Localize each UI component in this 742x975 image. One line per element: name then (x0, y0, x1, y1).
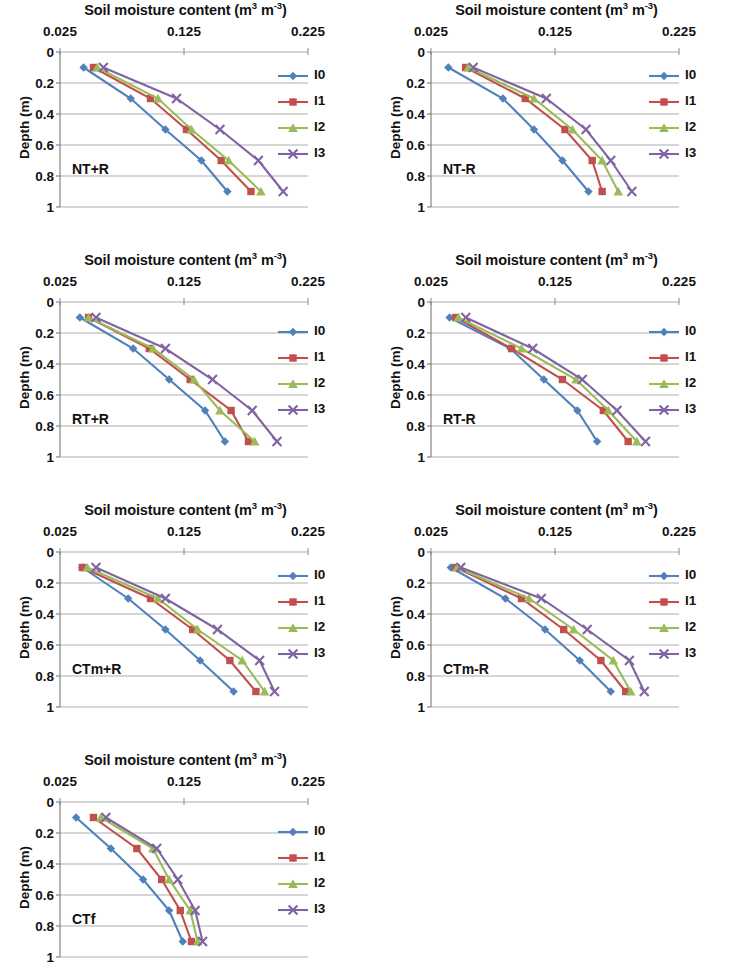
legend-label-i2: I2 (314, 875, 325, 890)
series-line-i2 (97, 68, 261, 192)
series-marker-i1 (252, 688, 259, 695)
legend-label-i3: I3 (685, 145, 696, 160)
legend-marker-i1 (660, 98, 667, 105)
legend-label-i2: I2 (685, 119, 696, 134)
series-line-i1 (93, 68, 250, 192)
series-marker-i3 (255, 656, 264, 665)
legend-label-i2: I2 (314, 119, 325, 134)
series-marker-i3 (625, 656, 634, 665)
legend-label-i2: I2 (314, 619, 325, 634)
chart-panel-ctm-r: Soil moisture content (m3 m-3)0.0250.125… (371, 500, 742, 750)
legend-label-i1: I1 (314, 593, 325, 608)
series-marker-i3 (248, 406, 257, 415)
legend-marker-i0 (289, 572, 297, 580)
legend-marker-i1 (289, 98, 296, 105)
series-marker-i1 (226, 657, 233, 664)
panel-label: RT-R (443, 411, 476, 427)
legend-label-i0: I0 (314, 567, 325, 582)
series-marker-i3 (582, 125, 591, 134)
series-marker-i3 (161, 594, 170, 603)
series-marker-i3 (606, 156, 615, 165)
legend-marker-i1 (289, 354, 296, 361)
legend-marker-i0 (289, 828, 297, 836)
panel-label: CTm+R (72, 661, 121, 677)
series-line-i2 (101, 818, 198, 942)
legend-label-i3: I3 (314, 401, 325, 416)
series-marker-i2 (153, 94, 163, 103)
chart-panel-ctf: Soil moisture content (m3 m-3)0.0250.125… (0, 750, 371, 975)
legend-label-i3: I3 (314, 901, 325, 916)
legend-label-i3: I3 (685, 401, 696, 416)
series-marker-i3 (208, 375, 217, 384)
panel-label: CTm-R (443, 661, 489, 677)
legend-label-i1: I1 (314, 93, 325, 108)
legend-marker-i1 (660, 354, 667, 361)
legend-label-i1: I1 (685, 93, 696, 108)
series-marker-i1 (90, 814, 97, 821)
legend-label-i1: I1 (685, 593, 696, 608)
legend-label-i0: I0 (314, 323, 325, 338)
legend-label-i0: I0 (685, 567, 696, 582)
series-marker-i1 (598, 188, 605, 195)
legend-label-i1: I1 (314, 849, 325, 864)
chart-panel-rt-r: Soil moisture content (m3 m-3)0.0250.125… (371, 250, 742, 500)
series-marker-i3 (273, 437, 282, 446)
chart-panel-ctm-r: Soil moisture content (m3 m-3)0.0250.125… (0, 500, 371, 750)
legend-label-i3: I3 (685, 645, 696, 660)
legend-marker-i0 (289, 328, 297, 336)
series-marker-i3 (613, 406, 622, 415)
panel-label: CTf (72, 911, 95, 927)
legend-marker-i1 (660, 598, 667, 605)
series-marker-i2 (164, 875, 174, 884)
series-marker-i1 (218, 157, 225, 164)
series-marker-i3 (172, 94, 181, 103)
series-marker-i0 (76, 313, 84, 321)
series-marker-i3 (216, 125, 225, 134)
series-marker-i3 (627, 187, 636, 196)
chart-panel-nt-r: Soil moisture content (m3 m-3)0.0250.125… (371, 0, 742, 250)
legend-label-i0: I0 (314, 823, 325, 838)
legend-label-i0: I0 (685, 323, 696, 338)
series-marker-i3 (270, 687, 279, 696)
chart-panel-nt-r: Soil moisture content (m3 m-3)0.0250.125… (0, 0, 371, 250)
series-marker-i0 (179, 937, 187, 945)
legend-label-i2: I2 (314, 375, 325, 390)
legend-label-i3: I3 (314, 645, 325, 660)
series-marker-i1 (133, 845, 140, 852)
legend-marker-i0 (289, 72, 297, 80)
panel-label: RT+R (72, 411, 109, 427)
panel-label: NT-R (443, 161, 476, 177)
legend-marker-i0 (660, 572, 668, 580)
legend-marker-i1 (289, 598, 296, 605)
series-marker-i3 (161, 344, 170, 353)
legend-marker-i1 (289, 854, 296, 861)
legend-marker-i0 (660, 328, 668, 336)
series-marker-i1 (247, 188, 254, 195)
series-marker-i1 (559, 376, 566, 383)
series-marker-i1 (158, 876, 165, 883)
series-marker-i3 (578, 375, 587, 384)
series-marker-i1 (597, 657, 604, 664)
panel-label: NT+R (72, 161, 109, 177)
series-marker-i3 (213, 625, 222, 634)
legend-marker-i0 (660, 72, 668, 80)
legend-label-i1: I1 (685, 349, 696, 364)
series-marker-i1 (177, 907, 184, 914)
figure-panel-grid: Soil moisture content (m3 m-3)0.0250.125… (0, 0, 742, 975)
series-marker-i1 (560, 626, 567, 633)
series-marker-i3 (542, 94, 551, 103)
legend-label-i2: I2 (685, 619, 696, 634)
legend-label-i2: I2 (685, 375, 696, 390)
chart-panel-rt-r: Soil moisture content (m3 m-3)0.0250.125… (0, 250, 371, 500)
legend-label-i0: I0 (314, 67, 325, 82)
legend-label-i0: I0 (685, 67, 696, 82)
legend-label-i1: I1 (314, 349, 325, 364)
series-marker-i3 (537, 594, 546, 603)
series-marker-i3 (640, 687, 649, 696)
series-marker-i3 (254, 156, 263, 165)
series-marker-i3 (279, 187, 288, 196)
legend-label-i3: I3 (314, 145, 325, 160)
series-marker-i3 (583, 625, 592, 634)
series-marker-i1 (589, 157, 596, 164)
series-marker-i0 (444, 63, 452, 71)
